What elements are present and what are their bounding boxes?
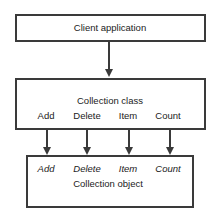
arrowhead-icon [105, 69, 113, 77]
arrowhead-icon [125, 147, 133, 155]
object-method-count: Count [155, 163, 180, 174]
arrow-delete [86, 130, 88, 148]
object-method-add: Add [38, 163, 55, 174]
arrow-item [128, 130, 130, 148]
arrow-count [169, 130, 171, 148]
object-method-delete: Delete [73, 163, 100, 174]
class-method-delete: Delete [73, 110, 100, 121]
class-method-count: Count [155, 110, 180, 121]
client-application-label: Client application [74, 22, 146, 33]
class-method-item: Item [119, 110, 137, 121]
collection-class-label: Collection class [77, 95, 143, 106]
arrowhead-icon [166, 147, 174, 155]
arrowhead-icon [43, 147, 51, 155]
arrowhead-icon [83, 147, 91, 155]
arrow-client-to-class [108, 42, 110, 70]
collection-object-label: Collection object [73, 178, 143, 189]
object-method-item: Item [119, 163, 137, 174]
class-method-add: Add [38, 110, 55, 121]
arrow-add [46, 130, 48, 148]
